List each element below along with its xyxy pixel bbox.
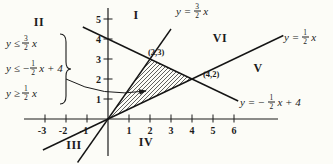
math-text: y ≤ xyxy=(6,37,22,49)
math-text: x xyxy=(29,87,37,99)
inequality-row-3: y ≥ 12 x xyxy=(6,80,63,105)
equation-label-right: y = 12 x xyxy=(284,28,316,45)
y-tick-label: 3 xyxy=(96,54,101,65)
math-text: x xyxy=(201,5,209,17)
fraction: 12 xyxy=(22,84,29,101)
x-tick-label: 3 xyxy=(169,125,174,136)
equation-label-bottom: y = − 12 x + 4 xyxy=(240,93,301,110)
math-text: x xyxy=(29,37,37,49)
x-tick-label: -3 xyxy=(38,125,46,136)
fraction: 12 xyxy=(30,59,37,76)
inequality-system: y ≤ 32 x y ≤ −12 x + 4 y ≥ 12 x xyxy=(6,30,63,105)
x-tick-label: 5 xyxy=(211,125,216,136)
x-tick-label: 6 xyxy=(232,125,237,136)
figure-canvas: -3-2-112345612345 y ≤ 32 x y ≤ −12 x + 4… xyxy=(0,0,333,164)
math-text: y = − xyxy=(240,96,268,108)
y-tick-label: 2 xyxy=(96,74,101,85)
inequality-row-2: y ≤ −12 x + 4 xyxy=(6,55,63,80)
fraction-denominator: 2 xyxy=(24,43,28,51)
fraction-denominator: 2 xyxy=(269,102,273,110)
fraction-denominator: 2 xyxy=(195,11,199,19)
math-text: y = xyxy=(176,5,194,17)
x-tick-label: 2 xyxy=(148,125,153,136)
math-text: x + 4 xyxy=(275,96,301,108)
math-text: x + 4 xyxy=(37,62,63,74)
fraction-denominator: 2 xyxy=(303,37,307,45)
fraction: 12 xyxy=(302,29,309,46)
math-text: y ≥ xyxy=(6,87,22,99)
x-tick-label: -2 xyxy=(59,125,67,136)
solution-region xyxy=(108,59,192,119)
x-tick-label: 4 xyxy=(190,125,195,136)
y-tick-label: 1 xyxy=(96,94,101,105)
fraction-denominator: 2 xyxy=(24,93,28,101)
fraction-denominator: 2 xyxy=(31,68,35,76)
math-text: y = xyxy=(284,31,302,43)
fraction: 32 xyxy=(194,3,201,20)
fraction: 32 xyxy=(22,34,29,51)
math-text: x xyxy=(309,31,317,43)
math-text: y ≤ − xyxy=(6,62,30,74)
equation-label-top: y = 32 x xyxy=(176,2,208,19)
fraction: 12 xyxy=(268,94,275,111)
y-tick-label: 5 xyxy=(96,14,101,25)
x-tick-label: 1 xyxy=(127,125,132,136)
inequality-row-1: y ≤ 32 x xyxy=(6,30,63,55)
